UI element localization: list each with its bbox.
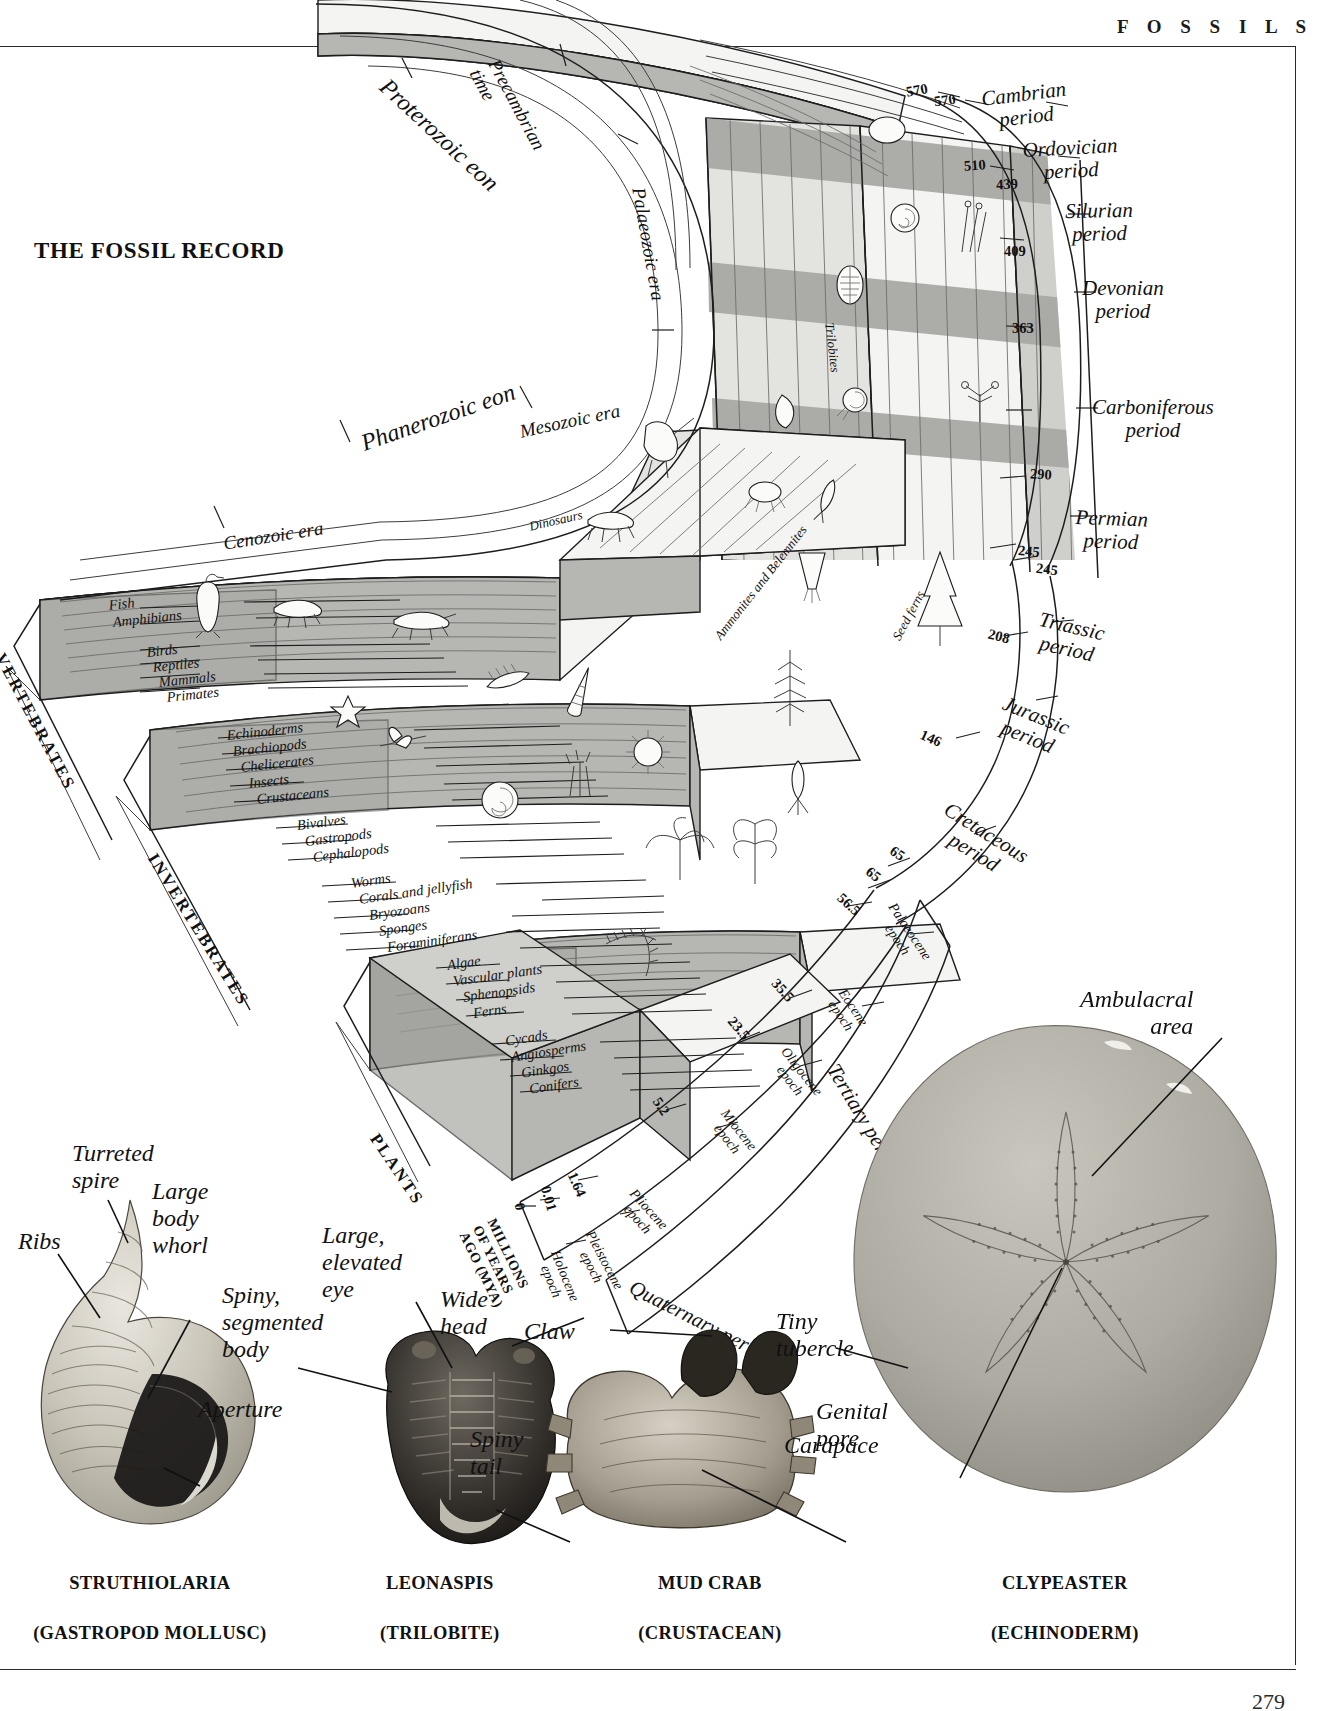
caption-struthiolaria: STRUTHIOLARIA (GASTROPOD MOLLUSC): [0, 1546, 280, 1671]
caption-mud-crab: MUD CRAB (CRUSTACEAN): [570, 1546, 830, 1671]
caption-clypeaster: CLYPEASTER (ECHINODERM): [910, 1546, 1200, 1671]
fossil-record-page: F O S S I L S 279 THE FOSSIL RECORD .ln …: [0, 0, 1341, 1711]
caption-clypeaster-subtitle: (ECHINODERM): [991, 1623, 1138, 1643]
label-wide-head: Wide head: [440, 1286, 488, 1340]
caption-leonaspis-name: LEONASPIS: [386, 1573, 494, 1593]
caption-struthiolaria-subtitle: (GASTROPOD MOLLUSC): [33, 1623, 266, 1643]
label-large-elevated-eye: Large, elevated eye: [322, 1222, 402, 1303]
caption-mud-crab-subtitle: (CRUSTACEAN): [638, 1623, 781, 1643]
label-ambulacral-area: Ambulacral area: [1080, 986, 1193, 1040]
label-spiny-segmented-body: Spiny, segmented body: [222, 1282, 323, 1363]
label-genital-pore: Genital pore: [816, 1398, 888, 1452]
label-aperture: Aperture: [198, 1396, 282, 1423]
label-large-body-whorl: Large body whorl: [152, 1178, 208, 1259]
caption-clypeaster-name: CLYPEASTER: [1002, 1573, 1128, 1593]
label-spiny-tail: Spiny tail: [470, 1426, 523, 1480]
specimen-clypeaster: [836, 1026, 1276, 1492]
specimen-photo-layer: .pl { fill:none; stroke:#111; stroke-wid…: [0, 0, 1341, 1711]
caption-mud-crab-name: MUD CRAB: [658, 1573, 762, 1593]
caption-leonaspis: LEONASPIS (TRILOBITE): [300, 1546, 560, 1671]
caption-struthiolaria-name: STRUTHIOLARIA: [69, 1573, 230, 1593]
label-tiny-tubercle: Tiny tubercle: [776, 1308, 854, 1362]
label-ribs: Ribs: [18, 1228, 61, 1255]
label-turreted-spire: Turreted spire: [72, 1140, 154, 1194]
caption-leonaspis-subtitle: (TRILOBITE): [380, 1623, 499, 1643]
label-claw: Claw: [524, 1318, 575, 1345]
